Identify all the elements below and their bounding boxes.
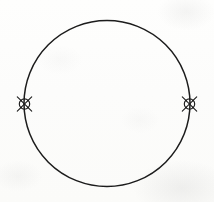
right-node-marker bbox=[182, 97, 196, 111]
left-node-marker bbox=[17, 97, 31, 111]
main-circle bbox=[24, 21, 190, 187]
circle-diagram: Circle with two opposed node markers bbox=[0, 0, 214, 202]
figure-canvas: Circle with two opposed node markers bbox=[0, 0, 214, 202]
